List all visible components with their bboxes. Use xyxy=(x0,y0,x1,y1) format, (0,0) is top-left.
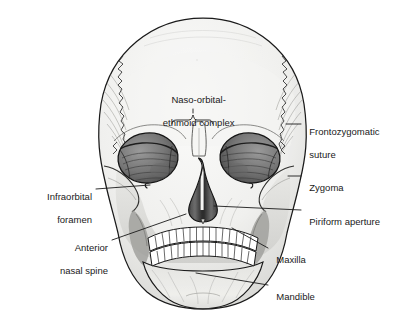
label-line-1: Naso-orbital- xyxy=(171,94,225,105)
label-naso-orbital-ethmoid-complex: Naso-orbital- ethmoid complex xyxy=(136,82,256,128)
label-line-2: suture xyxy=(309,149,335,160)
label-line-1: Maxilla xyxy=(276,254,306,265)
label-line-1: Mandible xyxy=(276,291,315,302)
label-maxilla: Maxilla xyxy=(271,242,361,265)
label-frontozygomatic-suture: Frontozygomatic suture xyxy=(304,114,398,160)
label-line-1: Frontozygomatic xyxy=(309,126,379,137)
label-piriform-aperture: Piriform aperture xyxy=(304,204,398,227)
label-mandible: Mandible xyxy=(271,279,361,302)
label-line-2: foramen xyxy=(57,214,92,225)
skull-body xyxy=(99,18,307,309)
label-line-2: ethmoid complex xyxy=(163,117,235,128)
label-line-1: Anterior xyxy=(75,242,108,253)
label-infraorbital-foramen: Infraorbital foramen xyxy=(0,179,92,225)
label-line-2: nasal spine xyxy=(60,265,108,276)
label-zygoma: Zygoma xyxy=(304,170,394,193)
label-line-1: Zygoma xyxy=(309,182,343,193)
label-anterior-nasal-spine: Anterior nasal spine xyxy=(14,230,108,276)
label-line-1: Piriform aperture xyxy=(309,216,380,227)
label-line-1: Infraorbital xyxy=(47,191,92,202)
